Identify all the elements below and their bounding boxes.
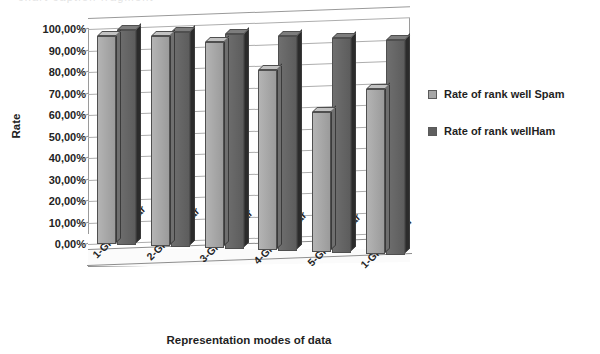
bar-front-face bbox=[151, 36, 170, 247]
y-axis-tick-label: 0,00% bbox=[18, 238, 86, 250]
chart-legend: Rate of rank well SpamRate of rank wellH… bbox=[428, 88, 598, 162]
y-axis-tick-label: 20,00% bbox=[18, 195, 86, 207]
bar-side-face bbox=[190, 25, 195, 245]
x-axis-category-labels: 1-Grams Char2-Grams Char3-Grams Char4-Gr… bbox=[88, 252, 428, 330]
bar-spam bbox=[258, 70, 277, 251]
bar-front-face bbox=[366, 89, 385, 255]
y-axis-tick-label: 70,00% bbox=[18, 88, 86, 100]
bar-side-face bbox=[136, 23, 141, 243]
y-axis-tick-label: 40,00% bbox=[18, 152, 86, 164]
x-axis-title: Representation modes of data bbox=[88, 334, 410, 346]
y-axis-tick-label: 30,00% bbox=[18, 174, 86, 186]
bar-group bbox=[205, 18, 244, 250]
bar-front-face bbox=[97, 36, 116, 245]
bar-front-face bbox=[312, 112, 331, 252]
legend-item: Rate of rank well Spam bbox=[428, 88, 598, 100]
bar-side-face bbox=[244, 27, 249, 247]
bar-spam bbox=[366, 89, 385, 255]
bar-side-face bbox=[405, 33, 410, 253]
bar-group bbox=[312, 18, 351, 250]
y-axis-tick-label: 60,00% bbox=[18, 109, 86, 121]
bar-side-face bbox=[224, 35, 229, 246]
bar-group bbox=[366, 18, 405, 250]
bar-group bbox=[97, 18, 136, 250]
bar-side-face bbox=[385, 82, 390, 252]
bar-spam bbox=[312, 112, 331, 252]
bar-side-face bbox=[170, 29, 175, 244]
y-axis-tick-label: 90,00% bbox=[18, 45, 86, 57]
bar-group bbox=[258, 18, 297, 250]
cropped-caption-strip: chart caption fragment bbox=[0, 0, 600, 6]
bar-front-face bbox=[205, 42, 224, 248]
bar-side-face bbox=[331, 106, 336, 250]
bar-front-face bbox=[258, 70, 277, 251]
chart-container: chart caption fragment Rate 0,00%10,00%2… bbox=[0, 0, 600, 354]
bar-spam bbox=[151, 36, 170, 247]
bar-side-face bbox=[116, 29, 121, 242]
bar-side-face bbox=[297, 29, 302, 249]
bar-spam bbox=[205, 42, 224, 248]
legend-label: Rate of rank wellHam bbox=[444, 125, 555, 137]
bar-spam bbox=[97, 36, 116, 245]
y-axis-tick-label: 100,00% bbox=[18, 23, 86, 35]
bar-side-face bbox=[351, 31, 356, 251]
y-axis-tick-label: 80,00% bbox=[18, 66, 86, 78]
legend-item: Rate of rank wellHam bbox=[428, 125, 598, 137]
legend-label: Rate of rank well Spam bbox=[444, 88, 564, 100]
bar-side-face bbox=[277, 63, 282, 248]
legend-swatch-icon bbox=[428, 127, 437, 136]
bar-group bbox=[151, 18, 190, 250]
y-axis-tick-label: 50,00% bbox=[18, 131, 86, 143]
y-axis-tick-label: 10,00% bbox=[18, 217, 86, 229]
y-axis-tick-labels: 0,00%10,00%20,00%30,00%40,00%50,00%60,00… bbox=[18, 0, 86, 354]
legend-swatch-icon bbox=[428, 90, 437, 99]
